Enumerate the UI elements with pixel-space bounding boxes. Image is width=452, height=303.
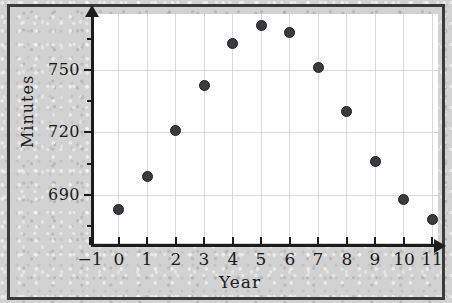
y-axis-tick-major bbox=[84, 194, 92, 196]
y-axis-tick-label: 690 bbox=[26, 185, 80, 204]
y-axis-tick-minor bbox=[87, 225, 92, 227]
x-axis-tick bbox=[89, 237, 91, 245]
x-axis-tick bbox=[260, 237, 262, 245]
y-axis-tick-minor bbox=[87, 163, 92, 165]
y-axis-arrow-icon bbox=[85, 5, 99, 17]
gridline-vertical bbox=[318, 14, 319, 243]
x-axis-tick-label: 11 bbox=[412, 249, 452, 269]
data-point bbox=[370, 156, 381, 167]
gridline-vertical bbox=[204, 14, 205, 243]
data-point bbox=[341, 106, 352, 117]
data-point bbox=[227, 38, 238, 49]
x-axis-tick bbox=[146, 237, 148, 245]
gridline-horizontal bbox=[94, 70, 438, 71]
scatter-plot-figure: 750 720 690 −1 0 1 2 3 4 5 6 7 8 9 10 11… bbox=[0, 0, 452, 303]
data-point bbox=[313, 62, 324, 73]
x-axis-tick bbox=[203, 237, 205, 245]
data-point bbox=[256, 20, 267, 31]
y-axis-title: Minutes bbox=[18, 52, 37, 172]
data-point bbox=[427, 214, 438, 225]
data-point bbox=[398, 194, 409, 205]
plot-panel bbox=[94, 14, 438, 243]
data-point bbox=[142, 171, 153, 182]
x-axis-tick bbox=[374, 237, 376, 245]
gridline-vertical bbox=[261, 14, 262, 243]
gridline-horizontal bbox=[94, 195, 438, 196]
y-axis-tick-major bbox=[84, 69, 92, 71]
x-axis-tick bbox=[175, 237, 177, 245]
x-axis-tick bbox=[232, 237, 234, 245]
gridline-vertical bbox=[147, 14, 148, 243]
gridline-vertical bbox=[403, 14, 404, 243]
gridline-vertical bbox=[432, 14, 433, 243]
y-axis-tick-minor bbox=[87, 38, 92, 40]
gridline-vertical bbox=[375, 14, 376, 243]
data-point bbox=[199, 80, 210, 91]
y-axis-tick-major bbox=[84, 131, 92, 133]
x-axis-tick bbox=[289, 237, 291, 245]
y-axis-tick-minor bbox=[87, 100, 92, 102]
x-axis-line bbox=[91, 244, 438, 247]
data-point bbox=[170, 125, 181, 136]
x-axis-tick bbox=[431, 237, 433, 245]
x-axis-tick bbox=[346, 237, 348, 245]
x-axis-tick bbox=[118, 237, 120, 245]
data-point bbox=[113, 204, 124, 215]
x-axis-title: Year bbox=[180, 272, 300, 292]
gridline-vertical bbox=[289, 14, 290, 243]
data-point bbox=[284, 27, 295, 38]
gridline-vertical bbox=[346, 14, 347, 243]
gridline-horizontal bbox=[94, 132, 438, 133]
x-axis-tick bbox=[317, 237, 319, 245]
x-axis-tick bbox=[403, 237, 405, 245]
